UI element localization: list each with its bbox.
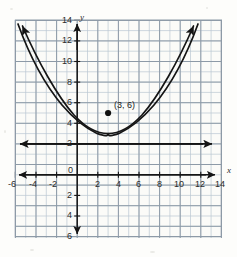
y-tick-label--6: 6 [67,232,72,241]
scan-speck [10,8,13,10]
x-tick-label--6: -6 [8,180,16,189]
scan-speck [30,249,34,251]
y-tick-label-4: 4 [67,119,72,128]
y-tick-label-12: 12 [62,36,72,45]
x-tick-label-0: 0 [68,166,73,175]
x-tick-label-14: 14 [215,180,225,189]
x-tick-label-12: 12 [195,180,205,189]
y-tick-label--4: 4 [67,211,72,220]
y-axis-name: y [80,13,84,22]
scan-speck [150,251,155,253]
x-tick-label--2: -2 [49,180,57,189]
y-tick-label-14: 14 [62,16,72,25]
scan-speck [4,130,6,133]
x-axis-name: x [227,166,231,175]
x-tick-label--4: -4 [29,180,37,189]
coordinate-grid-figure: -6 -4 -2 0 2 4 6 8 10 12 14 14 12 10 8 6… [0,0,237,257]
y-tick-label-6: 6 [67,98,72,107]
plotted-point [105,110,111,116]
x-tick-label-6: 6 [136,180,141,189]
x-tick-label-8: 8 [157,180,162,189]
point-annotation-label: (3, 6) [114,101,135,110]
x-tick-label-4: 4 [116,180,121,189]
graph-canvas [0,0,237,257]
y-tick-label-10: 10 [62,57,72,66]
y-tick-label-8: 8 [67,78,72,87]
x-tick-label-10: 10 [174,180,184,189]
y-tick-label--2: 2 [67,191,72,200]
y-tick-label-2: 2 [67,139,72,148]
scan-speck [206,7,208,9]
x-tick-label-2: 2 [95,180,100,189]
